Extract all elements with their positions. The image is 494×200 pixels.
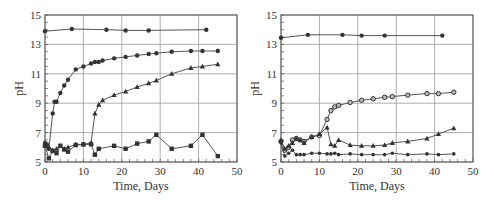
data-point-marker — [89, 142, 93, 146]
data-point-marker — [54, 151, 58, 155]
data-point-marker — [325, 152, 329, 156]
y-tick-label: 7 — [272, 127, 278, 139]
data-point-marker — [215, 61, 220, 66]
data-point-marker — [62, 147, 66, 151]
data-point-marker — [62, 83, 66, 87]
data-point-marker — [279, 36, 283, 40]
y-tick-label: 11 — [266, 68, 277, 80]
data-point-marker — [50, 111, 54, 115]
data-point-marker — [66, 77, 70, 81]
x-tick-label: 10 — [78, 165, 90, 177]
data-point-marker — [92, 111, 97, 116]
data-point-marker — [382, 95, 386, 99]
data-point-marker — [425, 91, 429, 95]
data-point-marker — [359, 33, 363, 37]
data-point-marker — [81, 142, 85, 146]
data-point-marker — [50, 149, 54, 153]
series-series-3-triangle — [278, 125, 456, 151]
series-series-1-circle-top — [43, 27, 209, 34]
data-point-marker — [74, 67, 78, 71]
x-tick-label: 20 — [116, 165, 128, 177]
data-point-marker — [348, 100, 352, 104]
data-point-marker — [146, 139, 150, 143]
data-point-marker — [54, 100, 58, 104]
data-point-marker — [371, 97, 375, 101]
y-tick-label: 13 — [30, 38, 42, 50]
y-tick-label: 13 — [266, 38, 278, 50]
data-point-marker — [333, 151, 337, 155]
data-point-marker — [204, 28, 208, 32]
data-point-marker — [97, 60, 101, 64]
y-tick-label: 5 — [36, 156, 42, 168]
data-point-marker — [74, 143, 78, 147]
data-point-marker — [452, 90, 456, 94]
x-tick-label: 30 — [391, 165, 403, 177]
data-point-marker — [200, 49, 204, 53]
data-point-marker — [112, 56, 116, 60]
y-tick-label: 15 — [30, 9, 42, 21]
x-tick-label: 40 — [429, 165, 441, 177]
grid — [45, 15, 237, 162]
series-series-1-circle-top — [279, 33, 445, 40]
data-point-marker — [81, 64, 85, 68]
y-axis-label: pH — [12, 81, 26, 96]
data-point-marker — [170, 50, 174, 54]
data-point-marker — [390, 94, 394, 98]
x-tick-label: 0 — [278, 165, 284, 177]
data-point-marker — [146, 28, 150, 32]
data-point-marker — [146, 52, 150, 56]
data-point-marker — [337, 153, 341, 157]
data-point-marker — [391, 151, 395, 155]
data-point-marker — [371, 153, 375, 157]
chart-panel-right: 01020304050579111315Time, DayspH — [248, 9, 479, 193]
data-point-marker — [359, 98, 363, 102]
data-point-marker — [58, 144, 62, 148]
data-point-marker — [436, 91, 440, 95]
data-point-marker — [452, 152, 456, 156]
x-tick-label: 50 — [232, 165, 244, 177]
data-point-marker — [283, 154, 287, 158]
data-point-marker — [318, 151, 322, 155]
x-axis-label: Time, Days — [113, 179, 169, 193]
data-point-marker — [406, 93, 410, 97]
y-tick-label: 15 — [266, 9, 278, 21]
data-point-marker — [287, 151, 291, 155]
data-point-marker — [360, 153, 364, 157]
data-point-marker — [324, 125, 329, 130]
data-point-marker — [123, 55, 127, 59]
data-point-marker — [348, 152, 352, 156]
data-point-marker — [123, 147, 127, 151]
x-tick-label: 10 — [314, 165, 326, 177]
data-point-marker — [66, 150, 70, 154]
x-axis-label: Time, Days — [349, 179, 405, 193]
plot-frame — [281, 15, 473, 162]
data-point-marker — [70, 27, 74, 31]
series-series-3-triangle — [42, 61, 220, 152]
data-point-marker — [336, 103, 340, 107]
chart-canvas: 01020304050579111315Time, DayspH01020304… — [0, 0, 494, 200]
data-point-marker — [123, 28, 127, 32]
data-point-marker — [154, 51, 158, 55]
y-tick-label: 11 — [30, 68, 41, 80]
data-point-marker — [216, 49, 220, 53]
y-tick-label: 9 — [36, 97, 42, 109]
data-point-marker — [170, 147, 174, 151]
plot-frame — [45, 15, 237, 162]
grid — [281, 15, 473, 162]
data-point-marker — [93, 60, 97, 64]
data-point-marker — [189, 144, 193, 148]
data-point-marker — [295, 153, 299, 157]
data-point-marker — [310, 151, 314, 155]
data-point-marker — [328, 142, 333, 147]
data-point-marker — [104, 28, 108, 32]
data-point-marker — [298, 153, 302, 157]
data-point-marker — [135, 141, 139, 145]
data-point-marker — [200, 133, 204, 137]
data-point-marker — [451, 125, 456, 130]
x-tick-label: 40 — [193, 165, 205, 177]
data-point-marker — [279, 141, 283, 145]
data-point-marker — [425, 152, 429, 156]
data-point-marker — [47, 156, 51, 160]
data-point-marker — [135, 53, 139, 57]
data-point-marker — [406, 153, 410, 157]
